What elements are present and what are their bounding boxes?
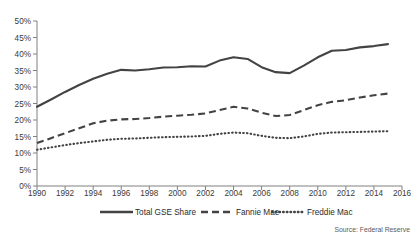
y-tick-label: 5% [19, 166, 31, 175]
source-note: Source: Federal Reserve [334, 226, 410, 233]
x-tick-label: 2000 [168, 189, 187, 198]
x-tick-label: 2012 [337, 189, 356, 198]
x-tick-label: 2008 [281, 189, 300, 198]
y-axis-tick-marks [33, 21, 37, 186]
y-tick-label: 50% [15, 17, 31, 26]
x-tick-label: 2010 [309, 189, 328, 198]
y-tick-label: 45% [15, 34, 31, 43]
y-tick-label: 20% [15, 116, 31, 125]
x-tick-label: 2006 [253, 189, 272, 198]
y-tick-label: 35% [15, 67, 31, 76]
chart-container: 0%5%10%15%20%25%30%35%40%45%50% 19901992… [0, 0, 418, 243]
x-tick-label: 1990 [28, 189, 47, 198]
x-tick-label: 2016 [393, 189, 412, 198]
x-tick-label: 1996 [112, 189, 131, 198]
x-tick-label: 1994 [84, 189, 103, 198]
legend-label-freddie-mac: Freddie Mac [307, 208, 353, 217]
series-line-freddie-mac [37, 131, 388, 149]
legend: Total GSE Share Fannie Mae Freddie Mac [100, 208, 353, 217]
line-chart: 0%5%10%15%20%25%30%35%40%45%50% 19901992… [0, 0, 418, 243]
y-tick-label: 25% [15, 100, 31, 109]
x-axis-tick-labels: 1990199219941996199820002002200420062008… [28, 189, 412, 198]
y-tick-label: 40% [15, 50, 31, 59]
x-tick-label: 1998 [140, 189, 159, 198]
legend-label-total-gse-share: Total GSE Share [135, 208, 196, 217]
series-line-fannie-mae [37, 94, 388, 144]
series-line-total-gse-share [37, 44, 388, 107]
y-tick-label: 30% [15, 83, 31, 92]
y-tick-label: 15% [15, 133, 31, 142]
y-tick-label: 10% [15, 149, 31, 158]
x-tick-label: 2002 [196, 189, 215, 198]
y-axis-tick-labels: 0%5%10%15%20%25%30%35%40%45%50% [15, 17, 31, 191]
x-tick-label: 2014 [365, 189, 384, 198]
x-tick-label: 1992 [56, 189, 75, 198]
x-tick-label: 2004 [224, 189, 243, 198]
